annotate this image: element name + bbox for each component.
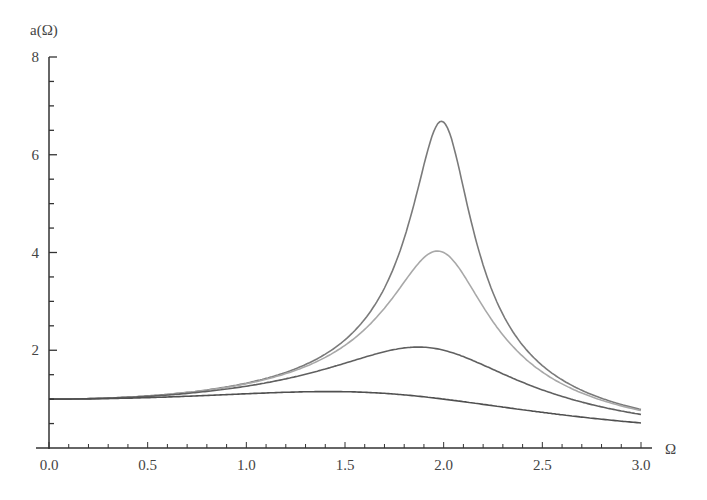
curves xyxy=(49,121,641,423)
x-tick-label: 1.0 xyxy=(237,457,256,473)
curve-1 xyxy=(49,121,641,409)
curve-2 xyxy=(49,251,641,411)
resonance-chart: 0.00.51.01.52.02.53.02468 a(Ω) Ω xyxy=(0,0,707,500)
axes: 0.00.51.01.52.02.53.02468 xyxy=(32,49,653,473)
x-tick-label: 0.5 xyxy=(138,457,157,473)
x-tick-label: 2.0 xyxy=(434,457,453,473)
y-tick-label: 4 xyxy=(32,245,40,261)
x-tick-label: 2.5 xyxy=(533,457,552,473)
x-tick-label: 1.5 xyxy=(336,457,355,473)
y-axis-label: a(Ω) xyxy=(30,22,58,39)
x-tick-label: 0.0 xyxy=(40,457,59,473)
y-tick-label: 2 xyxy=(32,342,40,358)
y-tick-label: 6 xyxy=(32,147,40,163)
y-tick-label: 8 xyxy=(32,49,40,65)
x-tick-label: 3.0 xyxy=(632,457,651,473)
x-axis-label: Ω xyxy=(665,441,676,457)
curve-3 xyxy=(49,347,641,415)
